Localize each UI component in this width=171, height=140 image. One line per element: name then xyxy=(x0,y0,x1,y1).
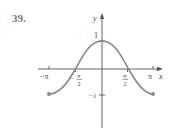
x-axis xyxy=(38,67,163,71)
svg-text:π: π xyxy=(123,72,127,80)
y-tick-label-1: 1 xyxy=(94,31,98,40)
x-tick-label-neg-half-pi: − π 2 xyxy=(70,72,82,87)
y-axis-label: y xyxy=(92,14,97,23)
cosine-graph: y x 1 −1 −π π − π 2 π 2 xyxy=(0,0,171,140)
right-endpoint xyxy=(151,92,155,96)
x-tick-label-pi: π xyxy=(148,72,152,81)
x-tick-label-neg-pi: −π xyxy=(40,72,49,81)
svg-text:2: 2 xyxy=(124,81,127,87)
y-tick-label-neg1: −1 xyxy=(89,92,97,100)
svg-text:−: − xyxy=(70,75,74,83)
svg-text:2: 2 xyxy=(78,81,81,87)
svg-text:π: π xyxy=(77,72,81,80)
left-endpoint xyxy=(47,92,51,96)
cosine-curve xyxy=(49,41,153,94)
x-axis-label: x xyxy=(158,72,163,81)
x-tick-label-half-pi: π 2 xyxy=(123,72,129,87)
y-axis xyxy=(100,13,104,128)
